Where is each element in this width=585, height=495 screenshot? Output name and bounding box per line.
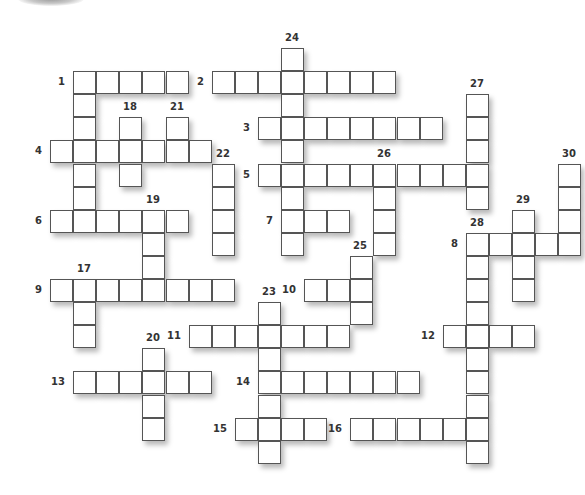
crossword-cell[interactable] [212, 279, 235, 302]
crossword-cell[interactable] [350, 418, 373, 441]
crossword-cell[interactable] [96, 71, 119, 94]
crossword-cell[interactable] [73, 302, 96, 325]
crossword-cell[interactable] [373, 233, 396, 256]
crossword-cell[interactable] [373, 418, 396, 441]
crossword-cell[interactable] [397, 164, 420, 187]
crossword-cell[interactable] [420, 418, 443, 441]
crossword-cell[interactable] [443, 325, 466, 348]
crossword-cell[interactable] [166, 371, 189, 394]
crossword-cell[interactable] [119, 279, 142, 302]
crossword-cell[interactable] [258, 71, 281, 94]
crossword-cell[interactable] [96, 371, 119, 394]
crossword-cell[interactable] [558, 187, 581, 210]
crossword-cell[interactable] [73, 325, 96, 348]
crossword-cell[interactable] [73, 94, 96, 117]
crossword-cell[interactable] [235, 418, 258, 441]
crossword-cell[interactable] [142, 348, 165, 371]
crossword-cell[interactable] [466, 279, 489, 302]
crossword-cell[interactable] [189, 140, 212, 163]
crossword-cell[interactable] [142, 140, 165, 163]
crossword-cell[interactable] [327, 371, 350, 394]
crossword-cell[interactable] [281, 371, 304, 394]
crossword-cell[interactable] [73, 71, 96, 94]
crossword-cell[interactable] [281, 164, 304, 187]
crossword-cell[interactable] [142, 418, 165, 441]
crossword-cell[interactable] [350, 71, 373, 94]
crossword-cell[interactable] [304, 164, 327, 187]
crossword-cell[interactable] [466, 325, 489, 348]
crossword-cell[interactable] [466, 233, 489, 256]
crossword-cell[interactable] [73, 371, 96, 394]
crossword-cell[interactable] [212, 210, 235, 233]
crossword-cell[interactable] [512, 279, 535, 302]
crossword-cell[interactable] [142, 279, 165, 302]
crossword-cell[interactable] [304, 279, 327, 302]
crossword-cell[interactable] [350, 279, 373, 302]
crossword-cell[interactable] [558, 164, 581, 187]
crossword-cell[interactable] [189, 279, 212, 302]
crossword-cell[interactable] [258, 441, 281, 464]
crossword-cell[interactable] [212, 325, 235, 348]
crossword-cell[interactable] [327, 325, 350, 348]
crossword-cell[interactable] [350, 302, 373, 325]
crossword-cell[interactable] [166, 71, 189, 94]
crossword-cell[interactable] [466, 302, 489, 325]
crossword-cell[interactable] [489, 325, 512, 348]
crossword-cell[interactable] [327, 164, 350, 187]
crossword-cell[interactable] [327, 117, 350, 140]
crossword-cell[interactable] [420, 164, 443, 187]
crossword-cell[interactable] [50, 279, 73, 302]
crossword-cell[interactable] [373, 371, 396, 394]
crossword-cell[interactable] [235, 325, 258, 348]
crossword-cell[interactable] [50, 140, 73, 163]
crossword-cell[interactable] [373, 210, 396, 233]
crossword-cell[interactable] [119, 117, 142, 140]
crossword-cell[interactable] [397, 117, 420, 140]
crossword-cell[interactable] [212, 164, 235, 187]
crossword-cell[interactable] [281, 210, 304, 233]
crossword-cell[interactable] [558, 210, 581, 233]
crossword-cell[interactable] [535, 233, 558, 256]
crossword-cell[interactable] [281, 117, 304, 140]
crossword-cell[interactable] [489, 233, 512, 256]
crossword-cell[interactable] [327, 279, 350, 302]
crossword-cell[interactable] [373, 117, 396, 140]
crossword-cell[interactable] [327, 210, 350, 233]
crossword-cell[interactable] [512, 233, 535, 256]
crossword-cell[interactable] [466, 94, 489, 117]
crossword-cell[interactable] [443, 418, 466, 441]
crossword-cell[interactable] [166, 210, 189, 233]
crossword-cell[interactable] [281, 94, 304, 117]
crossword-cell[interactable] [558, 233, 581, 256]
crossword-cell[interactable] [142, 256, 165, 279]
crossword-cell[interactable] [443, 164, 466, 187]
crossword-cell[interactable] [281, 140, 304, 163]
crossword-cell[interactable] [189, 371, 212, 394]
crossword-cell[interactable] [350, 371, 373, 394]
crossword-cell[interactable] [258, 302, 281, 325]
crossword-cell[interactable] [212, 187, 235, 210]
crossword-cell[interactable] [373, 164, 396, 187]
crossword-cell[interactable] [304, 210, 327, 233]
crossword-cell[interactable] [96, 140, 119, 163]
crossword-cell[interactable] [466, 140, 489, 163]
crossword-cell[interactable] [96, 210, 119, 233]
crossword-cell[interactable] [466, 256, 489, 279]
crossword-cell[interactable] [281, 325, 304, 348]
crossword-cell[interactable] [466, 395, 489, 418]
crossword-cell[interactable] [466, 371, 489, 394]
crossword-cell[interactable] [420, 117, 443, 140]
crossword-cell[interactable] [350, 164, 373, 187]
crossword-cell[interactable] [189, 325, 212, 348]
crossword-cell[interactable] [212, 71, 235, 94]
crossword-cell[interactable] [258, 117, 281, 140]
crossword-cell[interactable] [258, 164, 281, 187]
crossword-cell[interactable] [73, 279, 96, 302]
crossword-cell[interactable] [119, 140, 142, 163]
crossword-cell[interactable] [119, 371, 142, 394]
crossword-cell[interactable] [119, 210, 142, 233]
crossword-cell[interactable] [258, 371, 281, 394]
crossword-cell[interactable] [142, 371, 165, 394]
crossword-cell[interactable] [466, 441, 489, 464]
crossword-cell[interactable] [73, 187, 96, 210]
